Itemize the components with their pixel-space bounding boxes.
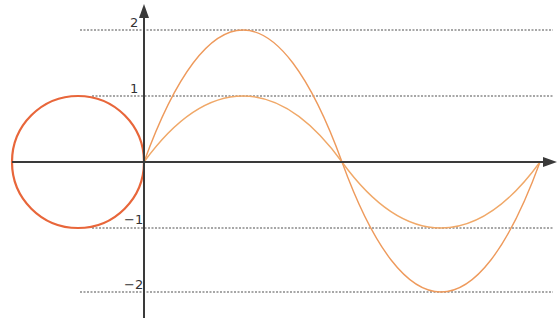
y-axis-arrow-icon (139, 4, 149, 18)
y-label-1: 1 (130, 81, 138, 96)
y-label-m2: −2 (124, 277, 143, 292)
x-axis-arrow-icon (543, 157, 557, 167)
axes (12, 16, 546, 318)
y-label-m1: −1 (124, 212, 143, 227)
sine-diagram: 2 1 −1 −2 (0, 0, 558, 325)
y-label-2: 2 (130, 15, 138, 30)
